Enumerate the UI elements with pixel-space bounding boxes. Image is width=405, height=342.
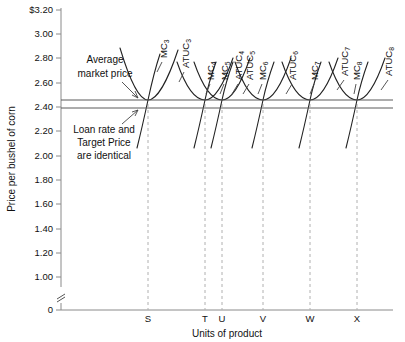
curve-label-sub: 7: [344, 47, 351, 51]
curve-label-mc-6: MC6: [257, 61, 269, 94]
y-tick-label: 1.00: [35, 271, 54, 282]
x-tick-label-t: T: [202, 313, 208, 324]
svg-text:ATUC5: ATUC5: [244, 51, 256, 80]
curve-label-mc-7: MC7: [309, 61, 321, 94]
curve-label-sub: 3: [185, 39, 192, 43]
svg-text:MC3: MC3: [158, 39, 170, 58]
curve-label-text: MC: [158, 43, 169, 58]
curve-label-text: ATUC: [233, 55, 244, 80]
curve-label-text: ATUC: [339, 51, 350, 76]
svg-text:MC7: MC7: [309, 61, 321, 80]
curve-label-atuc-8: ATUC8: [381, 47, 395, 90]
x-tick-label-s: S: [145, 313, 151, 324]
curve-label-text: MC: [257, 65, 268, 80]
y-tickmarks: [56, 10, 61, 310]
curve-label-text: ATUC: [383, 51, 394, 76]
y-tick-label: 3.00: [35, 28, 54, 39]
curve-label-sub: 3: [163, 39, 170, 43]
y-tick-label: 0: [48, 304, 53, 315]
y-tick-label: 1.60: [35, 198, 54, 209]
label-leader: [337, 80, 344, 90]
curve-label-sub: 6: [262, 61, 269, 65]
y-tick-label: 1.80: [35, 174, 54, 185]
svg-text:ATUC3: ATUC3: [180, 39, 192, 68]
annotation-leader-line: [122, 82, 138, 98]
price-lines: [61, 100, 393, 108]
curve-label-sub: 5: [249, 51, 256, 55]
curve-label-text: MC: [219, 65, 230, 80]
curve-label-atuc-3: ATUC3: [179, 39, 192, 82]
curve-label-sub: 4: [238, 51, 245, 55]
y-tick-label: 1.20: [35, 247, 54, 258]
curve-label-text: MC: [205, 65, 216, 80]
x-tick-label-v: V: [260, 313, 267, 324]
x-tick-label-u: U: [219, 313, 226, 324]
curve-label-text: ATUC: [180, 43, 191, 68]
label-leader: [157, 62, 162, 72]
curve-label-text: MC: [351, 65, 362, 80]
chart-container: $3.20 3.00 2.80 2.60 2.40 2.20 2.00 1.80…: [0, 0, 405, 342]
x-tick-labels: S T U V W X: [145, 313, 361, 324]
droplines: [148, 104, 357, 310]
curve-label-atuc-6: ATUC6: [286, 51, 299, 94]
y-tick-label: 2.80: [35, 52, 54, 63]
annotation-text: market price: [77, 68, 132, 79]
economics-chart: $3.20 3.00 2.80 2.60 2.40 2.20 2.00 1.80…: [0, 0, 405, 342]
label-leader: [232, 84, 238, 94]
label-leader: [354, 84, 356, 94]
x-axis-title: Units of product: [192, 328, 262, 339]
annotation-loan-rate-target-price: Loan rate and Target Price are identical: [73, 110, 138, 161]
annotation-text: Loan rate and: [73, 124, 135, 135]
curve-label-sub: 7: [314, 61, 321, 65]
svg-text:MC6: MC6: [257, 61, 269, 80]
svg-text:ATUC7: ATUC7: [339, 47, 351, 76]
curve-label-sub: 4: [210, 61, 217, 65]
annotation-leader-line: [122, 110, 138, 124]
curve-label-mc-8: MC8: [351, 61, 363, 94]
curve-label-sub: 8: [388, 47, 395, 51]
curve-label-text: ATUC: [287, 55, 298, 80]
label-leader: [258, 84, 262, 94]
y-tick-label: $3.20: [29, 4, 53, 15]
x-tick-label-x: X: [354, 313, 361, 324]
y-tick-label: 2.40: [35, 101, 54, 112]
curve-label-atuc-5: ATUC5: [243, 51, 256, 94]
label-leader: [381, 80, 388, 90]
svg-text:MC4: MC4: [205, 61, 217, 80]
curve-label-atuc-7: ATUC7: [337, 47, 351, 90]
annotation-text: Average: [86, 54, 124, 65]
curve-label-text: MC: [309, 65, 320, 80]
label-leader: [286, 84, 292, 94]
curve-mc-3: [137, 54, 160, 148]
x-tick-label-w: W: [306, 313, 315, 324]
svg-text:ATUC6: ATUC6: [287, 51, 299, 80]
annotation-text: are identical: [77, 150, 131, 161]
y-axis-title: Price per bushel of corn: [6, 106, 17, 212]
curve-label-sub: 5: [224, 61, 231, 65]
y-tick-label: 1.40: [35, 223, 54, 234]
curve-label-text: ATUC: [244, 55, 255, 80]
y-tick-labels: $3.20 3.00 2.80 2.60 2.40 2.20 2.00 1.80…: [29, 4, 53, 315]
annotation-average-market-price: Average market price: [77, 54, 138, 98]
annotation-text: Target Price: [77, 137, 131, 148]
y-tick-label: 2.60: [35, 77, 54, 88]
svg-text:MC8: MC8: [351, 61, 363, 80]
curve-label-sub: 6: [292, 51, 299, 55]
svg-text:ATUC8: ATUC8: [383, 47, 395, 76]
curve-label-sub: 8: [356, 61, 363, 65]
curve-label-mc-3: MC3: [157, 39, 170, 72]
svg-text:MC5: MC5: [219, 61, 231, 80]
y-tick-label: 2.00: [35, 150, 54, 161]
y-tick-label: 2.20: [35, 125, 54, 136]
